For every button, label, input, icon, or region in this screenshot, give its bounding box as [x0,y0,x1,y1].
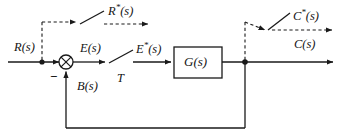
label-error-sampled-e-star: E*(s) [136,43,161,56]
label-feedback-b: B(s) [77,80,98,93]
sampler-input-star-blade [80,11,104,24]
output-sampler-dashed-branch [245,22,265,60]
sampler-input-blade [109,50,133,63]
sampler-output-star-blade [268,13,290,30]
label-error-e: E(s) [80,42,101,55]
label-input-sampled-r-star: R*(s) [108,5,133,18]
input-pickoff-dot [39,59,44,64]
summing-junction [59,55,73,69]
label-output-c: C(s) [294,38,316,51]
label-plant-g: G(s) [184,55,207,68]
label-input-r: R(s) [14,41,35,54]
label-output-sampled-c-star: C*(s) [293,10,319,23]
input-sampler-dashed-branch [42,22,76,60]
block-diagram: R(s) R*(s) E(s) E*(s) − B(s) T G(s) C*(s… [0,0,341,140]
summing-negative-sign: − [50,70,57,83]
label-sample-period-t: T [117,72,124,85]
